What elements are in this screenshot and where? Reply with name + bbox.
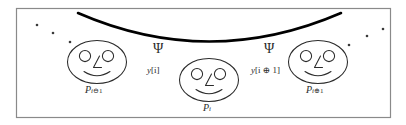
node-label-right: Pi⊕1 — [306, 85, 323, 95]
psi-antenna-icon-left: Ψ — [153, 42, 163, 56]
node-label-right-sub: i⊕1 — [312, 87, 323, 95]
node-label-left: Pi⊖1 — [85, 85, 102, 95]
signal-label-left-index: [i] — [151, 65, 160, 75]
node-label-right-sub-suffix: 1 — [320, 87, 324, 95]
node-label-center-sub: i — [209, 105, 211, 113]
signal-label-right: y[i ⊕ 1] — [251, 66, 280, 75]
decor-dot — [52, 32, 55, 35]
signal-label-right-index: [i ⊕ 1] — [255, 65, 280, 75]
node-label-center: Pi — [203, 103, 211, 113]
decor-dot — [69, 41, 72, 44]
decor-dot — [348, 44, 351, 47]
decor-dot — [36, 24, 39, 27]
decor-dot — [382, 28, 385, 31]
node-label-left-sub-suffix: 1 — [99, 87, 103, 95]
signal-label-left: y[i] — [147, 66, 160, 75]
psi-antenna-icon-right: Ψ — [264, 42, 274, 56]
node-label-left-sub: i⊖1 — [91, 87, 102, 95]
figure-canvas: Ψ Ψ y[i] y[i ⊕ 1] Pi⊖1 Pi Pi⊕1 — [0, 0, 406, 125]
decor-dot — [366, 35, 369, 38]
